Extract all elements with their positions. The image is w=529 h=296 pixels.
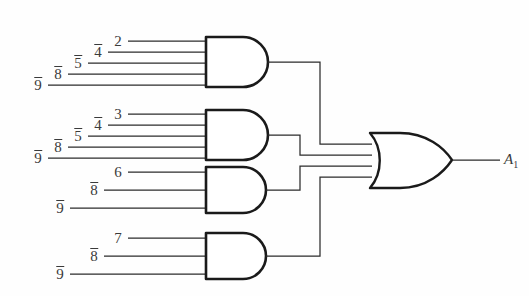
input-label-g3-2: 8	[90, 182, 98, 198]
circuit-canvas	[0, 0, 529, 296]
input-label-g1-4: 8	[54, 66, 62, 82]
output-subscript: 1	[513, 159, 518, 170]
input-label-g1-1: 2	[114, 34, 122, 49]
input-label-g1-2: 4	[94, 44, 102, 60]
and-gate-1-body	[206, 37, 268, 87]
and-gate-3-body	[206, 167, 266, 213]
input-label-g2-5: 9	[34, 150, 42, 166]
and-gate-2-body	[206, 110, 268, 160]
input-label-g2-3: 5	[74, 128, 82, 144]
logic-circuit-figure: 2 4 5 8 9 3 4 5 8 9 6 8 9 7 8 9	[0, 0, 529, 296]
input-label-g1-5: 9	[34, 77, 42, 93]
input-label-g4-1: 7	[114, 231, 122, 246]
input-label-g2-1: 3	[114, 107, 122, 122]
and-gate-4-body	[206, 233, 266, 279]
input-label-g1-3: 5	[74, 55, 82, 71]
input-label-g3-3: 9	[56, 200, 64, 216]
input-label-g4-3: 9	[56, 266, 64, 282]
gate-2-input-wires	[48, 114, 206, 158]
output-label: A1	[504, 151, 518, 170]
or-gate-1-body	[370, 133, 452, 188]
input-label-g3-1: 6	[114, 165, 122, 180]
wire-gate3-to-or	[266, 166, 372, 190]
input-label-g2-2: 4	[94, 117, 102, 133]
wire-gate4-to-or	[266, 177, 372, 256]
gate-1-input-wires	[48, 41, 206, 85]
input-label-g4-2: 8	[90, 248, 98, 264]
wire-gate1-to-or	[268, 62, 372, 144]
input-label-g2-4: 8	[54, 139, 62, 155]
